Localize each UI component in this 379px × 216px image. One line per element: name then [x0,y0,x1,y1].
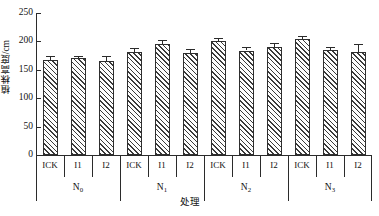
x-group-label: N2 [216,181,276,194]
group-label-text: N [73,182,80,192]
error-bar-cap [186,49,195,50]
y-tick: 250 [37,13,41,14]
x-group-label: N3 [300,181,360,194]
bar [211,41,226,155]
group-label-text: N [325,182,332,192]
error-bar-cap [214,38,223,39]
error-bar-cap [158,40,167,41]
group-label-text: N [241,182,248,192]
y-tick-label: 200 [19,35,33,46]
error-bar-cap [242,47,251,48]
error-bar-cap [326,47,335,48]
bar [71,58,86,155]
group-label-text: N [157,182,164,192]
error-bar-cap [74,56,83,57]
bar [239,51,254,156]
y-tick-label: 150 [19,64,33,75]
bar [155,44,170,155]
bar [43,60,58,155]
x-group-label: N0 [48,181,108,194]
error-bar-cap [354,44,363,45]
bar [127,52,142,155]
bar [183,53,198,155]
x-group-label: N1 [132,181,192,194]
group-label-subscript: 3 [332,186,335,193]
y-axis-line [36,13,37,155]
y-tick: 150 [37,70,41,71]
y-tick-label: 250 [19,7,33,18]
bar [295,39,310,155]
y-tick: 100 [37,98,41,99]
bar [267,47,282,155]
x-axis-title: 处理 [0,196,379,208]
y-axis-title: 植株高度/cm [1,40,17,94]
y-tick: 0 [37,155,41,156]
error-bar-cap [298,36,307,37]
error-bar-cap [102,56,111,57]
y-tick-label: 50 [24,121,34,132]
error-bar [358,44,359,51]
bar [351,52,366,155]
error-bar-cap [46,56,55,57]
bar [99,61,114,155]
error-bar-cap [270,43,279,44]
y-tick: 50 [37,127,41,128]
group-label-subscript: 1 [164,186,167,193]
error-bar-cap [130,48,139,49]
group-label-subscript: 2 [248,186,251,193]
y-tick-label: 100 [19,92,33,103]
plot-area: 050100150200250 ICKI1I2ICKI1I2ICKI1I2ICK… [36,13,372,155]
x-treatment-label: I2 [341,159,375,171]
group-label-subscript: 0 [80,186,83,193]
bar-chart: 植株高度/cm 050100150200250 ICKI1I2ICKI1I2IC… [0,0,379,216]
bar [323,50,338,155]
y-tick: 200 [37,41,41,42]
